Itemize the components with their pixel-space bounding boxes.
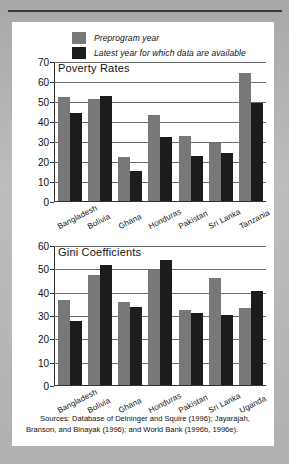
y-tick-label: 50 [38,264,49,275]
legend-item-latest: Latest year for which data are available [72,45,272,60]
y-tick-mark [50,142,54,143]
legend-item-preprogram: Preprogram year [72,30,272,45]
x-tick-label: Tanzania [238,208,271,231]
bar [70,321,82,385]
bar [239,308,251,385]
bar [148,270,160,386]
bar [251,291,263,386]
y-tick-mark [50,122,54,123]
y-tick-mark [50,162,54,163]
y-tick-label: 60 [38,77,49,88]
bar-group [236,245,266,385]
bar-groups [55,245,266,385]
plot-area-gini: 0102030405060 [54,246,266,386]
y-tick-label: 20 [38,334,49,345]
legend-swatch-latest [72,47,86,59]
y-tick-mark [50,82,54,83]
bar-group [55,61,85,201]
bar-group [145,61,175,201]
y-tick-label: 30 [38,311,49,322]
bar [130,171,142,201]
y-tick-label: 40 [38,117,49,128]
y-tick-label: 0 [43,197,49,208]
x-tick-label: Ghana [117,212,143,231]
bar [160,260,172,385]
y-tick-mark [50,363,54,364]
bar-group [176,245,206,385]
sources-line-2: Branson, and Binayak (1996); and World B… [26,425,264,436]
top-horizontal-rule [8,10,282,12]
bar-group [206,61,236,201]
y-tick-label: 20 [38,157,49,168]
bar [191,313,203,385]
x-tick-label: Ghana [117,396,143,415]
y-tick-label: 60 [38,241,49,252]
x-tick-label: Honduras [147,391,183,415]
bar-group [85,245,115,385]
chart-gini-coefficients: Gini Coefficients 0102030405060 Banglade… [12,244,274,424]
bar-group [55,245,85,385]
y-tick-label: 10 [38,357,49,368]
bar [100,96,112,201]
bar [58,300,70,385]
y-tick-mark [50,293,54,294]
legend-swatch-preprogram [72,32,86,44]
bar [58,97,70,201]
figure-card: Preprogram year Latest year for which da… [12,22,274,446]
bar-group [206,245,236,385]
sources-note: Sources: Database of Deininger and Squir… [26,414,264,435]
bar [191,156,203,201]
x-tick-labels-poverty: BangladeshBoliviaGhanaHondurasPakistanSr… [54,206,266,240]
x-axis-gini [54,385,266,386]
bar [148,115,160,201]
bar [209,278,221,385]
bar [221,153,233,201]
y-tick-mark [50,182,54,183]
bar [130,307,142,385]
y-tick-mark [50,316,54,317]
x-tick-label: Sri Lanka [207,207,242,231]
chart-legend: Preprogram year Latest year for which da… [72,30,272,60]
bar-group [236,61,266,201]
bar [70,113,82,201]
y-tick-label: 50 [38,97,49,108]
bar [179,136,191,201]
y-tick-mark [50,62,54,63]
plot-area-poverty: 010203040506070 [54,62,266,202]
bar [179,310,191,385]
x-axis-poverty [54,201,266,202]
y-tick-mark [50,202,54,203]
y-tick-label: 70 [38,57,49,68]
legend-label-preprogram: Preprogram year [94,33,159,43]
y-tick-mark [50,386,54,387]
sources-line-1: Sources: Database of Deininger and Squir… [26,414,264,425]
bar-group [176,61,206,201]
bar [88,275,100,385]
legend-label-latest: Latest year for which data are available [94,48,246,58]
y-tick-label: 10 [38,177,49,188]
y-tick-label: 30 [38,137,49,148]
bar-group [115,61,145,201]
bar [239,73,251,201]
x-tick-label: Pakistan [177,209,209,231]
bar-group [115,245,145,385]
x-tick-label: Uganda [238,394,268,415]
y-tick-mark [50,246,54,247]
bar [118,302,130,385]
y-tick-mark [50,269,54,270]
x-tick-label: Sri Lanka [207,391,242,415]
bar-group [145,245,175,385]
bar-group [85,61,115,201]
figure-page: Preprogram year Latest year for which da… [0,0,289,464]
y-tick-mark [50,339,54,340]
x-tick-label: Honduras [147,207,183,231]
bar [221,315,233,385]
y-tick-mark [50,102,54,103]
chart-poverty-rates: Poverty Rates 010203040506070 Bangladesh… [12,60,274,240]
bar [251,103,263,201]
bar [209,143,221,201]
bar-groups [55,61,266,201]
y-tick-label: 0 [43,381,49,392]
bar [118,157,130,201]
y-tick-label: 40 [38,287,49,298]
